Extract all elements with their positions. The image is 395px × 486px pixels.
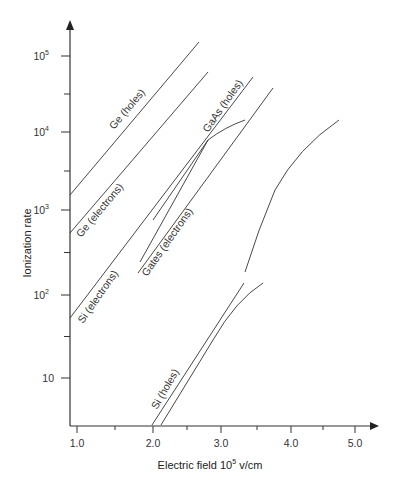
y-tick-label: 103 <box>33 203 49 216</box>
curve-gaas-holes-curve <box>153 120 245 220</box>
x-axis-label-main: Electric field 10 <box>158 459 233 471</box>
label-ge-holes: Ge (holes) <box>106 86 147 131</box>
y-tick-label: 105 <box>33 49 49 62</box>
y-axis-arrow-icon <box>66 20 74 30</box>
x-tick-label: 1.0 <box>70 437 85 449</box>
x-axis-arrow-icon <box>370 422 379 430</box>
curves <box>70 42 339 425</box>
curve-ge-holes <box>70 42 199 195</box>
chart-canvas: 10510410310210 1.02.03.04.05.0 Ge (holes… <box>0 0 395 486</box>
label-si-electrons: Si (electrons) <box>75 268 120 326</box>
x-axis-label: Electric field 105 v/cm <box>158 458 263 471</box>
y-ticks: 10510410310210 <box>33 49 70 384</box>
y-axis-label: Ionization rate <box>21 208 33 277</box>
curve-labels: Ge (holes) Ge (electrons) Si (electrons)… <box>73 77 244 411</box>
label-gaas-holes: GaAs (holes) <box>200 77 245 134</box>
y-axis <box>66 20 74 426</box>
x-axis <box>70 422 379 430</box>
curve-gaas-holes-line <box>140 140 208 262</box>
label-si-holes: Si (holes) <box>148 367 181 411</box>
label-ge-electrons: Ge (electrons) <box>73 181 125 240</box>
y-tick-label: 104 <box>33 125 49 138</box>
x-tick-label: 5.0 <box>348 437 363 449</box>
y-tick-label: 102 <box>33 288 49 301</box>
curve-si-holes-line <box>152 283 244 425</box>
x-tick-label: 4.0 <box>284 437 299 449</box>
x-ticks: 1.02.03.04.05.0 <box>70 426 363 449</box>
curve-si-holes-curve <box>161 283 263 425</box>
ionization-rate-chart: 10510410310210 1.02.03.04.05.0 Ge (holes… <box>0 0 395 486</box>
curve-unlabeled-right <box>245 120 339 272</box>
y-tick-label: 10 <box>42 372 54 384</box>
x-axis-label-unit: v/cm <box>236 459 262 471</box>
x-tick-label: 2.0 <box>146 437 161 449</box>
curve-si-electrons <box>70 77 253 318</box>
x-tick-label: 3.0 <box>214 437 229 449</box>
